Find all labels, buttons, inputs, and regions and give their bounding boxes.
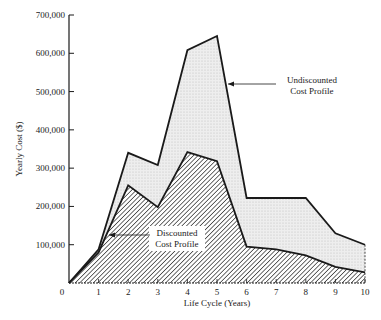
chart-svg: 100,000200,000300,000400,000500,000600,0… xyxy=(0,0,381,320)
x-tick-label: 2 xyxy=(126,287,131,297)
y-axis-title: Yearly Cost ($) xyxy=(14,121,24,176)
x-tick-label: 10 xyxy=(361,287,371,297)
x-tick-label: 5 xyxy=(215,287,220,297)
y-tick-label: 700,000 xyxy=(36,10,66,20)
x-tick-label: 6 xyxy=(244,287,249,297)
cost-profile-chart: 100,000200,000300,000400,000500,000600,0… xyxy=(0,0,381,320)
discounted-label-line2: Cost Profile xyxy=(155,239,198,249)
y-tick-label: 100,000 xyxy=(36,240,66,250)
x-tick-label: 3 xyxy=(156,287,161,297)
plot-areas xyxy=(69,36,365,283)
x-tick-label: 8 xyxy=(304,287,309,297)
y-tick-label: 300,000 xyxy=(36,163,66,173)
undiscounted-annotation: Undiscounted Cost Profile xyxy=(228,75,337,96)
x-tick-label: 7 xyxy=(274,287,279,297)
x-tick-label: 4 xyxy=(185,287,190,297)
y-tick-label: 200,000 xyxy=(36,201,66,211)
y-tick-label: 600,000 xyxy=(36,48,66,58)
discounted-label-line1: Discounted xyxy=(157,228,198,238)
undiscounted-label-line2: Cost Profile xyxy=(290,86,333,96)
x-tick-label: 1 xyxy=(96,287,101,297)
y-tick-label: 400,000 xyxy=(36,125,66,135)
x-axis-title: Life Cycle (Years) xyxy=(184,298,251,308)
arrowhead-icon xyxy=(228,82,234,87)
undiscounted-label-line1: Undiscounted xyxy=(287,75,337,85)
x-tick-label: 9 xyxy=(333,287,338,297)
y-tick-label: 500,000 xyxy=(36,87,66,97)
origin-label: 0 xyxy=(60,287,65,297)
